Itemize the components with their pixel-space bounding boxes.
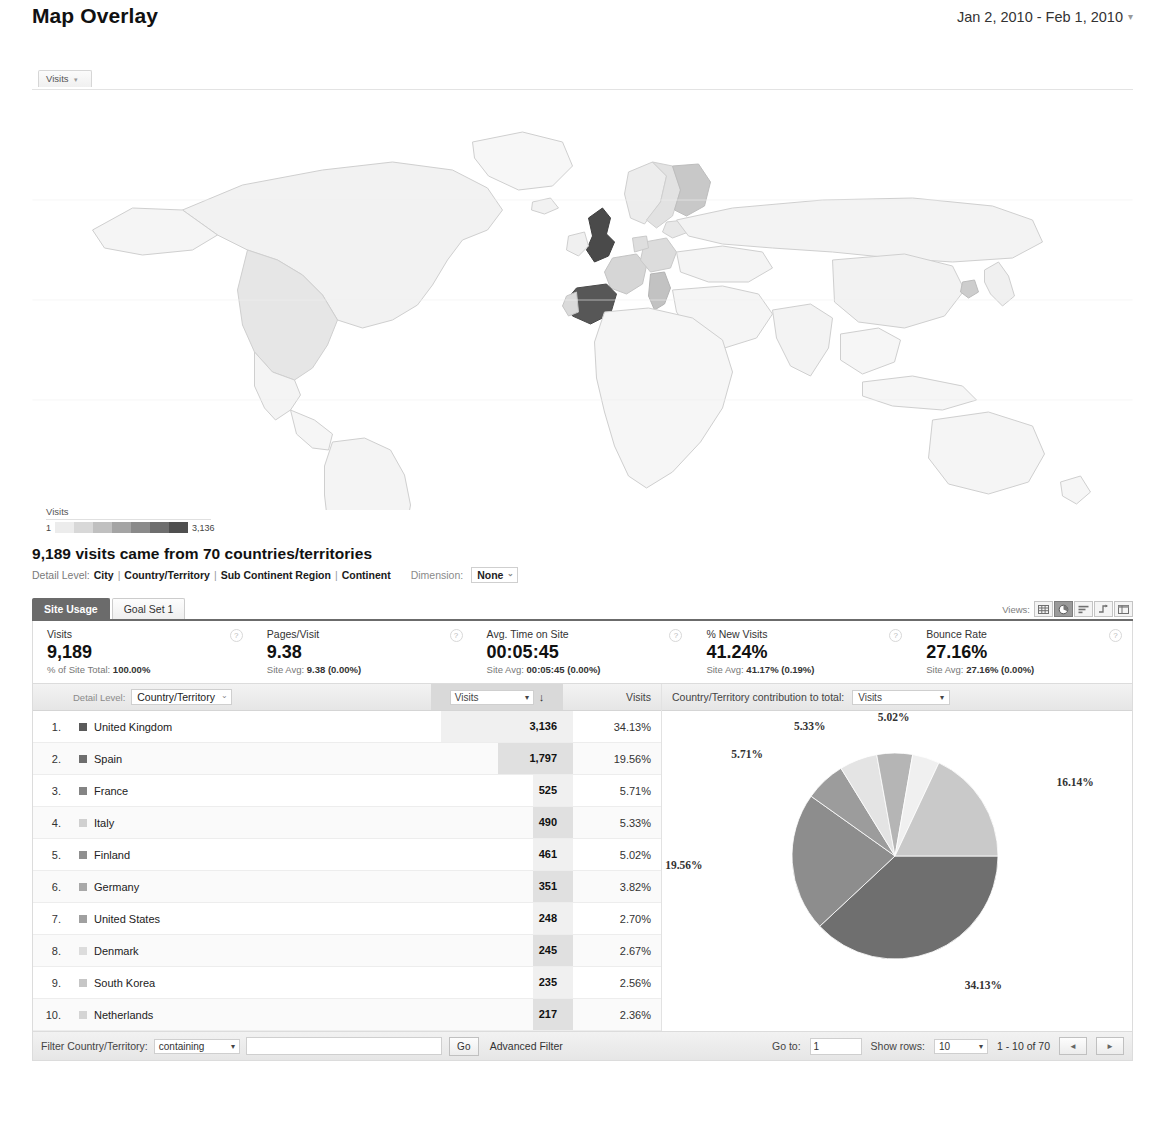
row-dimension[interactable]: Denmark	[71, 945, 441, 957]
table-row[interactable]: 1.United Kingdom3,13634.13%	[33, 711, 661, 743]
row-percent: 5.33%	[573, 817, 661, 829]
table-header-metric: Visits ▾ ↓	[431, 684, 563, 710]
row-visits: 217	[441, 999, 573, 1030]
goto-input[interactable]	[810, 1038, 862, 1055]
help-icon[interactable]: ?	[450, 629, 463, 642]
row-index: 10.	[33, 1009, 71, 1021]
row-dimension[interactable]: United States	[71, 913, 441, 925]
metric-picker[interactable]: Visits ▾	[450, 690, 534, 705]
row-dimension[interactable]: Finland	[71, 849, 441, 861]
series-color-swatch	[79, 979, 87, 987]
row-dimension[interactable]: United Kingdom	[71, 721, 441, 733]
contribution-metric-select[interactable]: Visits ▾	[852, 690, 950, 705]
row-index: 3.	[33, 785, 71, 797]
row-visits: 245	[441, 935, 573, 966]
map-metric-selector[interactable]: Visits▾	[38, 70, 92, 87]
row-index: 4.	[33, 817, 71, 829]
detail-level-country[interactable]: Country/Territory	[124, 569, 210, 581]
table-row[interactable]: 7.United States2482.70%	[33, 903, 661, 935]
filter-input[interactable]	[246, 1037, 442, 1055]
help-icon[interactable]: ?	[1109, 629, 1122, 642]
row-country-label: Spain	[94, 753, 122, 765]
tab-goal-set-1[interactable]: Goal Set 1	[112, 598, 186, 619]
metric-sub-value: 00:05:45 (0.00%)	[527, 664, 601, 675]
row-visits: 3,136	[441, 711, 573, 742]
region-eastern-europe	[677, 246, 773, 282]
metric-card: % New Visits41.24%Site Avg: 41.17% (0.19…	[692, 628, 912, 675]
chevron-down-icon: ▾	[231, 1042, 235, 1051]
row-dimension[interactable]: South Korea	[71, 977, 441, 989]
sort-descending-icon[interactable]: ↓	[539, 691, 545, 703]
region-china	[833, 254, 965, 328]
detail-level-continent[interactable]: Continent	[342, 569, 391, 581]
pie-view-icon[interactable]	[1054, 601, 1073, 617]
detail-level-city[interactable]: City	[94, 569, 114, 581]
dimension-picker[interactable]: Country/Territory ⌄	[131, 689, 232, 705]
bar-view-icon[interactable]	[1074, 601, 1093, 617]
summary-headline: 9,189 visits came from 70 countries/terr…	[32, 545, 1159, 563]
next-page-button[interactable]: ►	[1096, 1037, 1124, 1055]
pie-view-glyph	[1058, 604, 1069, 615]
row-dimension[interactable]: Germany	[71, 881, 441, 893]
table-row[interactable]: 2.Spain1,79719.56%	[33, 743, 661, 775]
filter-operator-select[interactable]: containing ▾	[154, 1039, 240, 1054]
region-japan	[985, 262, 1015, 306]
data-area: Detail Level: Country/Territory ⌄ Visits…	[32, 684, 1133, 1032]
table-row[interactable]: 5.Finland4615.02%	[33, 839, 661, 871]
report-panel: Site Usage Goal Set 1 Views:	[32, 597, 1133, 1061]
table-row[interactable]: 9.South Korea2352.56%	[33, 967, 661, 999]
metric-subtext: Site Avg: 9.38 (0.00%)	[267, 664, 473, 675]
table-row[interactable]: 3.France5255.71%	[33, 775, 661, 807]
detail-level-subcontinent[interactable]: Sub Continent Region	[221, 569, 331, 581]
table-row[interactable]: 8.Denmark2452.67%	[33, 935, 661, 967]
region-portugal	[563, 292, 579, 316]
region-iceland	[532, 198, 559, 214]
region-india	[773, 304, 833, 376]
goto-label: Go to:	[772, 1040, 801, 1052]
row-dimension[interactable]: Italy	[71, 817, 441, 829]
pivot-view-glyph	[1118, 605, 1129, 614]
comparison-view-icon[interactable]	[1094, 601, 1113, 617]
row-country-label: South Korea	[94, 977, 155, 989]
row-index: 2.	[33, 753, 71, 765]
advanced-filter-link[interactable]: Advanced Filter	[490, 1040, 563, 1052]
table-row[interactable]: 6.Germany3513.82%	[33, 871, 661, 903]
table-row[interactable]: 4.Italy4905.33%	[33, 807, 661, 839]
tab-site-usage[interactable]: Site Usage	[32, 598, 110, 619]
table-row[interactable]: 10.Netherlands2172.36%	[33, 999, 661, 1031]
detail-level-row: Detail Level: City | Country/Territory |…	[32, 567, 1159, 583]
legend-swatch	[93, 522, 112, 533]
table-view-icon[interactable]	[1034, 601, 1053, 617]
show-rows-label: Show rows:	[871, 1040, 925, 1052]
separator: |	[214, 569, 217, 581]
table-footer: Filter Country/Territory: containing ▾ G…	[32, 1032, 1133, 1061]
series-color-swatch	[79, 1011, 87, 1019]
metric-card: Pages/Visit9.38Site Avg: 9.38 (0.00%)?	[253, 628, 473, 675]
row-dimension[interactable]: Spain	[71, 753, 441, 765]
row-dimension[interactable]: Netherlands	[71, 1009, 441, 1021]
bar-view-glyph	[1078, 605, 1089, 614]
world-map[interactable]	[32, 90, 1133, 510]
table-header-percent[interactable]: Visits	[563, 691, 661, 703]
page-header: Map Overlay Jan 2, 2010 - Feb 1, 2010▾	[0, 0, 1159, 52]
pie-slice-label: 34.13%	[965, 979, 1002, 991]
region-central-america	[291, 410, 333, 450]
filter-go-button[interactable]: Go	[449, 1037, 479, 1056]
detail-level-header-label: Detail Level:	[73, 692, 125, 703]
series-color-swatch	[79, 723, 87, 731]
map-legend-gradient	[55, 522, 188, 533]
row-dimension[interactable]: France	[71, 785, 441, 797]
metric-name: Bounce Rate	[926, 628, 1132, 640]
pie-chart[interactable]: 34.13%19.56%5.71%5.33%5.02%16.14%	[662, 711, 1132, 1011]
map-legend-min: 1	[46, 523, 51, 533]
dimension-select[interactable]: None ⌄	[471, 567, 518, 583]
series-color-swatch	[79, 819, 87, 827]
prev-page-button[interactable]: ◄	[1059, 1037, 1087, 1055]
show-rows-select[interactable]: 10 ▾	[934, 1039, 988, 1054]
date-range-selector[interactable]: Jan 2, 2010 - Feb 1, 2010▾	[957, 9, 1133, 25]
help-icon[interactable]: ?	[230, 629, 243, 642]
pagination-controls: Go to: Show rows: 10 ▾ 1 - 10 of 70 ◄ ►	[772, 1037, 1124, 1055]
table-view-glyph	[1038, 605, 1049, 614]
pie-slice-label: 5.02%	[878, 711, 910, 723]
pivot-view-icon[interactable]	[1114, 601, 1133, 617]
